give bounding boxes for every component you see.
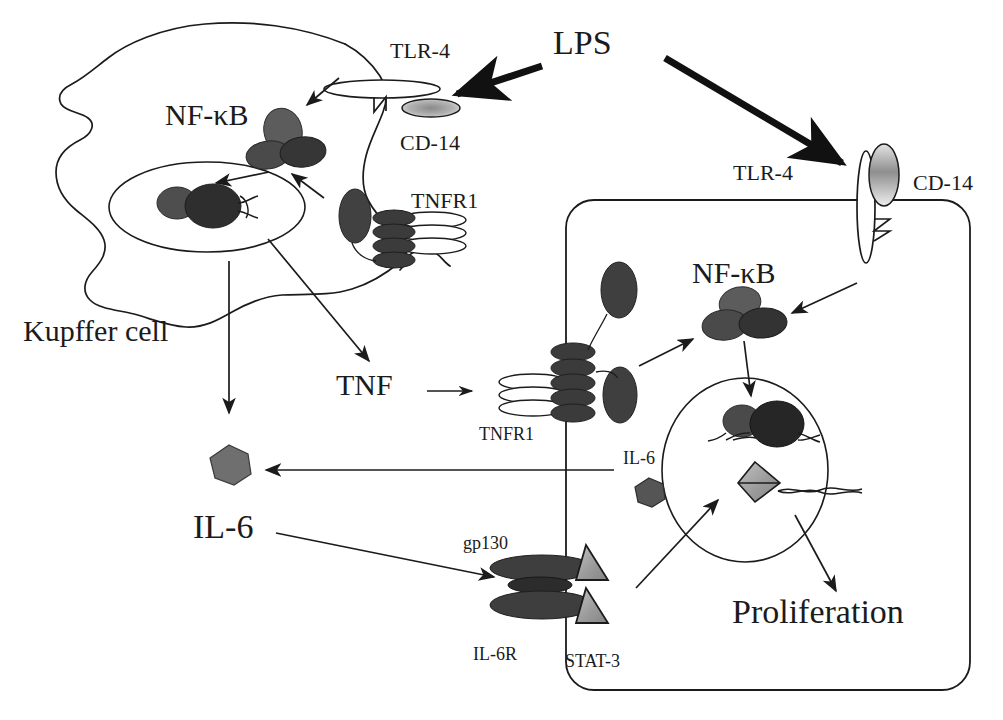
kupffer-nuclear-nfkb-dna-complex [157, 184, 258, 228]
arrow-il6-to-gp130 [276, 533, 494, 577]
diagram-canvas: LPS TLR-4 CD-14 NF-κB TNFR1 Kupffer cell… [0, 0, 1003, 720]
arrow-lps-to-kupffer-tlr4 [457, 66, 542, 94]
kupffer-cd14-receptor [402, 99, 460, 117]
arrow-stat3-to-nucleus [636, 500, 718, 588]
label-nfkb-kupffer: NF-κB [165, 100, 248, 130]
arrow-kupffer-to-tnf [268, 239, 369, 361]
label-lps: LPS [553, 26, 612, 60]
label-tnfr1-kupffer: TNFR1 [411, 190, 478, 212]
stat-3-lower-triangle [576, 588, 608, 623]
hepatocyte-cytoplasmic-nfkb-complex [701, 283, 788, 342]
label-proliferation: Proliferation [732, 595, 904, 629]
hepatocyte-cd14-receptor [869, 144, 899, 206]
arrow-nucleus-to-proliferation [795, 515, 836, 591]
arrow-tnfr1-to-nfkb-kupffer [292, 174, 324, 198]
label-tnf: TNF [336, 370, 393, 400]
label-cd14-hepatocyte: CD-14 [913, 172, 973, 194]
hepatocyte-nuclear-nfkb-dna-complex [708, 401, 820, 447]
hepatocyte-tnfr1-adaptor-upper [588, 262, 637, 350]
label-il6-secreted: IL-6 [193, 510, 253, 544]
arrow-nfkb-to-nucleus-hepatocyte [744, 341, 751, 396]
label-cd14-kupffer: CD-14 [400, 132, 460, 154]
arrow-tnfr1-to-nfkb-hepatocyte [639, 339, 693, 366]
gp130-il6r-receptor [490, 555, 594, 619]
hepatocyte-nuclear-stat3-dna-complex [738, 462, 862, 502]
arrow-tlr4-to-nfkb-hepatocyte [792, 283, 857, 313]
label-stat3: STAT-3 [565, 652, 620, 670]
stat-3-upper-triangle [576, 545, 608, 580]
hepatocyte-tnfr1-adaptor-lower [596, 367, 637, 423]
label-nfkb-hepatocyte: NF-κB [692, 258, 775, 288]
label-kupffer-cell: Kupffer cell [23, 316, 168, 346]
kupffer-cytoplasmic-nfkb-complex [244, 104, 327, 172]
arrow-nfkb-to-nucleus-kupffer [216, 172, 269, 183]
label-tnfr1-hepatocyte: TNFR1 [479, 425, 534, 443]
kupffer-tnfr1-receptor [373, 210, 466, 268]
arrow-lps-to-hepatocyte-tlr4 [665, 58, 842, 163]
il-6-secreted-molecule [210, 445, 251, 485]
label-tlr4-hepatocyte: TLR-4 [733, 162, 793, 184]
label-tlr4-kupffer: TLR-4 [390, 40, 450, 62]
label-gp130: gp130 [463, 534, 508, 552]
kupffer-tnfr1-adaptor-protein [339, 189, 376, 261]
hepatocyte-tnfr1-receptor [499, 343, 595, 422]
label-il6-hepatocyte: IL-6 [623, 449, 655, 467]
il-6-hepatocyte-molecule [635, 478, 665, 507]
label-il6r: IL-6R [473, 645, 517, 663]
